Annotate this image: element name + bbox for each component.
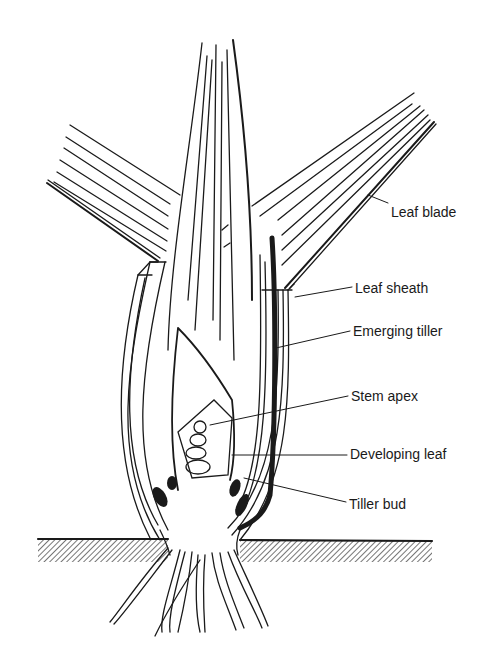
grass-tiller-diagram: Leaf blade Leaf sheath Emerging tiller S… <box>0 0 498 649</box>
central-shoot <box>168 40 252 360</box>
label-tiller-bud: Tiller bud <box>349 496 406 512</box>
right-leaf-blade <box>222 93 436 288</box>
label-stem-apex: Stem apex <box>351 388 418 404</box>
label-emerging-tiller: Emerging tiller <box>353 323 442 339</box>
label-leaf-sheath: Leaf sheath <box>355 280 428 296</box>
soil-surface <box>38 539 432 562</box>
tiller-buds <box>149 476 251 518</box>
stem-apex-shape <box>178 400 232 478</box>
left-leaf-blade <box>47 125 180 261</box>
crown-base <box>160 530 240 555</box>
label-developing-leaf: Developing leaf <box>350 446 447 462</box>
label-leaf-blade: Leaf blade <box>391 204 456 220</box>
right-sheath-layers <box>228 255 294 540</box>
